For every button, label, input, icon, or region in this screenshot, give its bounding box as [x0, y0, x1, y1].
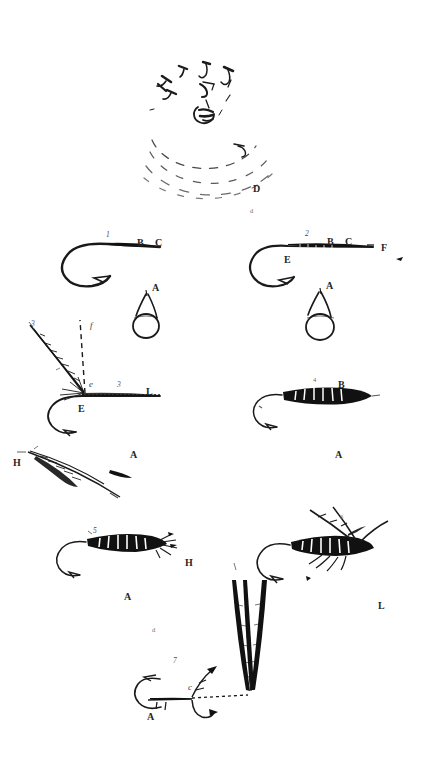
plate-label-c-4: C	[155, 238, 163, 248]
plate-label-c-30: c	[188, 683, 192, 692]
plate-label-a-20: A	[130, 450, 138, 460]
plate-canvas	[0, 0, 424, 760]
plate-label-a-25: A	[124, 592, 132, 602]
plate-label-d-0: D	[253, 184, 261, 194]
plate-label-h-24: H	[185, 558, 193, 568]
plate-label-b-7: B	[327, 237, 334, 247]
plate-label-5-23: 5	[93, 527, 97, 535]
plate-label-d-1: d	[250, 208, 253, 215]
plate-label-d-28: d	[152, 627, 155, 634]
plate-label-f-13: f	[90, 321, 93, 330]
plate-label-e-14: e	[89, 380, 93, 389]
plate-label-6-26: 6	[340, 514, 343, 521]
plate-label-4-18: 4	[313, 377, 316, 384]
plate-label-c-8: C	[345, 237, 353, 247]
plate-label-a-31: A	[147, 712, 155, 722]
plate-label-3-15: 3	[117, 381, 121, 389]
plate-label-l-16: L	[146, 387, 153, 397]
plate-label-a-5: A	[152, 283, 160, 293]
plate-label-7-29: 7	[173, 657, 177, 665]
plate-label-1-2: 1	[106, 231, 110, 239]
plate-label-a-11: A	[326, 281, 334, 291]
plate-label-3-12: 3	[31, 320, 35, 328]
plate-label-b-3: B	[137, 238, 144, 248]
plate-label-e-17: E	[78, 404, 85, 414]
plate-label-f-9: F	[381, 243, 387, 253]
plate-label-a-21: A	[335, 450, 343, 460]
plate-label-h-22: H	[13, 458, 21, 468]
plate-label-2-6: 2	[305, 230, 309, 238]
plate-label-b-19: B	[338, 380, 345, 390]
plate-label-l-27: L	[378, 601, 385, 611]
plate-label-e-10: E	[284, 255, 291, 265]
